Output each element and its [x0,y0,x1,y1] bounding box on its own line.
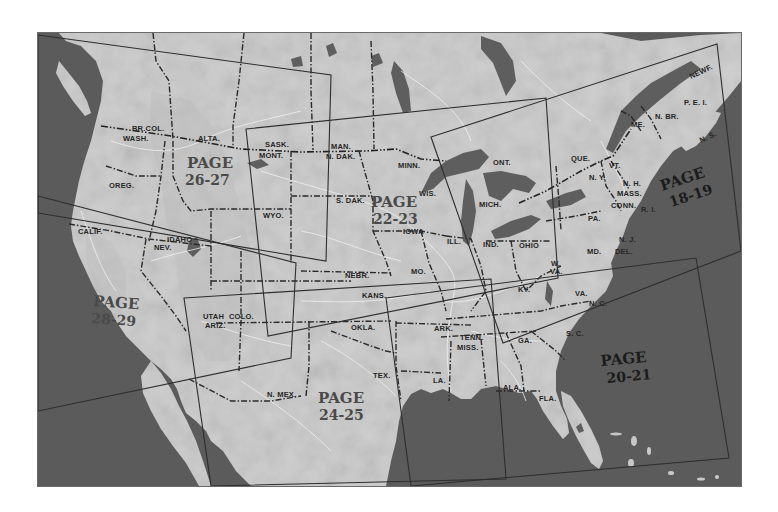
page-label-24-25: PAGE 24-25 [318,389,364,423]
label-man: MAN. [331,142,351,151]
label-nc: N. C. [589,299,607,308]
label-mich: MICH. [479,200,501,209]
label-ky: KY. [518,285,530,294]
label-mass: MASS. [617,189,642,198]
label-utah: UTAH [203,312,224,321]
label-ark: ARK. [434,324,453,333]
label-calif: CALIF. [78,227,103,236]
label-miss: MISS. [457,343,478,352]
label-nev: NEV. [154,243,172,252]
page-label-20-21: PAGE 20-21 [600,348,652,386]
label-me: ME. [631,120,645,129]
label-ga: GA. [518,336,532,345]
label-sc: S. C. [566,329,584,338]
svg-text:28-29: 28-29 [91,310,137,329]
label-ala: ALA. [503,383,521,392]
page-label-26-27: PAGE 26-27 [185,154,233,188]
label-mont: MONT. [259,151,283,160]
page-label-28-29: PAGE 28-29 [91,292,140,329]
label-va: VA. [575,289,588,298]
label-fla: FLA. [539,394,556,403]
label-md: MD. [587,247,601,256]
label-ndak: N. DAK. [326,152,355,161]
svg-text:22-23: 22-23 [373,211,418,227]
svg-text:PAGE: PAGE [187,154,233,172]
label-vt: VT. [609,161,620,170]
label-wash: WASH. [123,134,149,143]
label-wyo: WYO. [263,211,284,220]
label-ohio: OHIO [519,241,539,250]
label-pa: PA. [588,214,601,223]
label-nh: N. H. [623,179,641,188]
label-ill: ILL. [447,237,461,246]
svg-text:24-25: 24-25 [319,407,364,423]
svg-text:PAGE: PAGE [318,389,364,407]
label-que: QUE. [571,154,590,163]
svg-text:PAGE: PAGE [371,193,417,211]
label-wva2: VA. [550,267,563,276]
label-minn: MINN. [398,161,420,170]
page-label-22-23: PAGE 22-23 [371,193,418,227]
label-wis: WIS. [419,189,436,198]
relief-map: BR.COL. WASH. ALTA. SASK. MONT. MAN. N. … [38,33,741,486]
label-mo: MO. [411,267,426,276]
map-frame: BR.COL. WASH. ALTA. SASK. MONT. MAN. N. … [37,32,742,487]
svg-text:26-27: 26-27 [185,172,230,188]
label-nmex: N. MEX. [267,390,296,399]
label-oreg: OREG. [109,181,134,190]
label-ind: IND. [483,240,499,249]
label-sdak: S. DAK. [336,196,365,205]
label-brcol: BR.COL. [132,124,164,133]
label-alta: ALTA. [198,134,220,143]
label-colo: COLO. [229,312,254,321]
label-nebr: NEBR. [345,271,369,280]
label-nbr: N. BR. [655,112,679,121]
label-okla: OKLA. [351,323,375,332]
label-ny: N. Y. [589,173,606,182]
label-sask: SASK. [265,140,289,149]
label-tex: TEX. [373,371,390,380]
label-ri: R. I. [641,205,656,214]
label-ont: ONT. [493,158,511,167]
label-iowa: IOWA [403,227,424,236]
label-pei: P. E. I. [684,98,707,107]
label-la: LA. [433,376,446,385]
label-ariz: ARIZ. [205,321,226,330]
label-conn: CONN. [611,201,636,210]
label-nj: N. J. [619,235,636,244]
label-tenn: TENN. [460,333,484,342]
label-kans: KANS. [362,291,386,300]
label-del: DEL. [615,247,633,256]
